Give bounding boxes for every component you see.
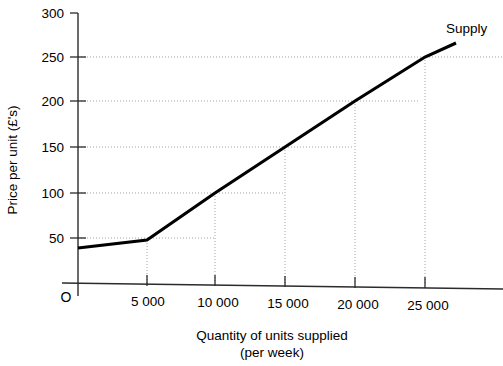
y-tick-label-100: 100 [41,186,64,201]
y-axis-title: Price per unit (£'s) [5,105,20,214]
origin-label: O [61,289,72,305]
x-axis-tick-labels: 5 000 10 000 15 000 20 000 25 000 [131,294,449,313]
y-tick-label-300: 300 [41,6,64,21]
supply-curve-line [78,43,456,248]
y-axis-tick-labels: 300 250 200 150 100 50 [41,6,64,246]
x-tick-label-15000: 15 000 [267,296,308,311]
horizontal-gridlines [78,57,503,238]
x-tick-label-25000: 25 000 [407,298,448,313]
y-tick-label-200: 200 [41,94,64,109]
x-axis-title-line1: Quantity of units supplied [196,328,348,343]
x-tick-label-10000: 10 000 [197,295,238,310]
y-tick-label-250: 250 [41,50,64,65]
chart-svg: 300 250 200 150 100 50 5 000 10 000 15 0… [0,0,503,366]
x-tick-label-5000: 5 000 [131,294,165,309]
y-tick-label-50: 50 [49,231,64,246]
supply-series-label: Supply [446,21,488,36]
x-axis [62,283,503,289]
vertical-gridlines [147,57,425,283]
x-axis-title-line2: (per week) [240,345,304,360]
supply-curve-chart: 300 250 200 150 100 50 5 000 10 000 15 0… [0,0,503,366]
y-tick-label-150: 150 [41,140,64,155]
x-tick-label-20000: 20 000 [337,297,378,312]
